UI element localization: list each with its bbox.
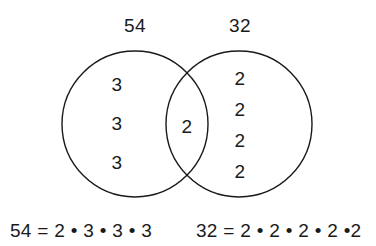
factor-token: 2 xyxy=(181,117,192,136)
factor-token: 2 xyxy=(234,131,245,150)
equation-right: 32 = 2 • 2 • 2 • 2 •2 xyxy=(196,221,361,240)
factor-token: 3 xyxy=(111,153,122,172)
set-label-left: 54 xyxy=(124,16,146,35)
factor-token: 2 xyxy=(234,69,245,88)
intersection-shared-factors: 2 xyxy=(181,117,192,136)
equation-left: 54 = 2 • 3 • 3 • 3 xyxy=(10,221,152,240)
factor-token: 2 xyxy=(234,100,245,119)
venn-diagram: 54 32 3 3 3 2 2 2 2 2 54 = 2 • 3 • 3 • 3… xyxy=(0,0,376,246)
factor-token: 2 xyxy=(234,162,245,181)
factor-token: 3 xyxy=(111,114,122,133)
left-exclusive-factors: 3 3 3 xyxy=(111,75,122,172)
factor-token: 3 xyxy=(111,75,122,94)
right-exclusive-factors: 2 2 2 2 xyxy=(234,69,245,181)
set-label-right: 32 xyxy=(229,16,251,35)
